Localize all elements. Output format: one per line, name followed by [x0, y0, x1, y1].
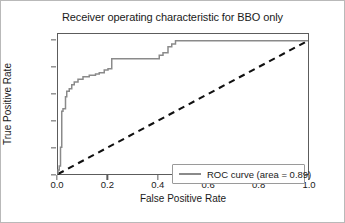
- x-tick-label: 0.0: [50, 179, 63, 190]
- page-title: Receiver operating characteristic for BB…: [1, 11, 344, 23]
- x-tick-mark: [157, 175, 158, 180]
- legend-entry-label: ROC curve (area = 0.89): [207, 169, 311, 180]
- y-tick-mark: [51, 120, 56, 121]
- x-axis-label: False Positive Rate: [57, 193, 309, 204]
- y-tick-mark: [51, 66, 56, 67]
- y-tick-mark: [51, 147, 56, 148]
- x-tick-label: 0.4: [151, 179, 164, 190]
- x-tick-label: 0.2: [101, 179, 114, 190]
- y-tick-mark: [51, 93, 56, 94]
- x-tick-mark: [56, 175, 57, 180]
- legend-box: ROC curve (area = 0.89): [172, 164, 305, 184]
- y-axis-label: True Positive Rate: [2, 63, 13, 145]
- chance-diagonal-line: [58, 41, 308, 174]
- legend-line-swatch: [179, 173, 201, 175]
- plot-canvas: [58, 34, 308, 174]
- x-tick-mark: [107, 175, 108, 180]
- plot-area: [57, 33, 309, 175]
- y-tick-mark: [51, 174, 56, 175]
- y-tick-mark: [51, 39, 56, 40]
- roc-figure: Receiver operating characteristic for BB…: [0, 0, 345, 223]
